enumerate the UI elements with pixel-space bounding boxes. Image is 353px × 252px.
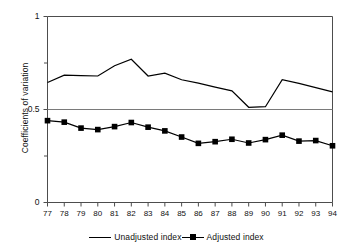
series-marker-adjusted	[229, 136, 235, 142]
series-marker-adjusted	[95, 127, 101, 133]
data-series-layer	[45, 59, 336, 148]
series-line-adjusted	[48, 121, 333, 146]
axes-layer	[44, 17, 333, 207]
series-marker-adjusted	[263, 137, 269, 143]
series-marker-adjusted	[330, 143, 336, 149]
series-marker-adjusted	[45, 118, 51, 124]
legend-line-swatch-icon	[89, 237, 111, 238]
series-marker-adjusted	[296, 138, 302, 144]
legend-label-unadjusted: Unadjusted index	[114, 232, 181, 242]
series-marker-adjusted	[112, 124, 118, 130]
series-marker-adjusted	[196, 141, 202, 147]
legend-label-adjusted: Adjusted index	[207, 232, 264, 242]
series-marker-adjusted	[212, 139, 218, 145]
series-marker-adjusted	[179, 134, 185, 140]
chart-figure: Coefficients of variation 10.50 77787980…	[0, 0, 353, 252]
series-marker-adjusted	[162, 128, 168, 134]
series-marker-adjusted	[246, 140, 252, 146]
legend-square-marker-swatch-icon	[182, 234, 204, 241]
series-line-unadjusted	[48, 59, 333, 107]
series-marker-adjusted	[279, 132, 285, 138]
chart-legend: Unadjusted index Adjusted index	[0, 232, 353, 242]
legend-entry-unadjusted: Unadjusted index	[89, 232, 181, 242]
series-marker-adjusted	[78, 125, 84, 131]
series-marker-adjusted	[145, 124, 151, 130]
plot-area	[0, 0, 353, 252]
series-marker-adjusted	[61, 119, 67, 125]
legend-entry-adjusted: Adjusted index	[182, 232, 264, 242]
series-marker-adjusted	[129, 120, 135, 126]
series-marker-adjusted	[313, 138, 319, 144]
